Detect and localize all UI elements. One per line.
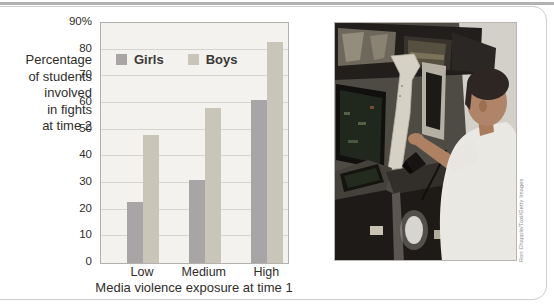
y-tick-label: 50 <box>79 122 92 134</box>
y-tick-label: 40 <box>79 148 92 160</box>
y-tick-label: 0 <box>86 255 92 267</box>
figure-top-rule <box>0 2 554 5</box>
x-category-label: Medium <box>182 265 226 279</box>
bar-group-medium <box>189 108 221 263</box>
y-tick-label: 60 <box>79 95 92 107</box>
boys-bar-high <box>267 42 283 263</box>
legend-swatch-icon <box>116 54 127 65</box>
legend-item-girls: Girls <box>116 52 164 67</box>
x-category-label: Low <box>131 265 154 279</box>
x-category-label: High <box>254 265 280 279</box>
arcade-cabinet-right <box>422 62 446 140</box>
girls-bar-high <box>251 100 267 263</box>
y-tick-label: 70 <box>79 68 92 80</box>
arcade-photo <box>334 22 517 261</box>
legend-label: Boys <box>206 52 238 67</box>
y-axis-ticks: 90%80706050403020100 <box>0 22 94 262</box>
boys-bar-low <box>143 135 159 263</box>
y-tick-label: 10 <box>79 228 92 240</box>
textbook-figure: Percentage of students involved in fight… <box>0 0 554 304</box>
y-tick-label: 30 <box>79 175 92 187</box>
boy-ear <box>479 100 487 112</box>
arcade-screen-left <box>336 84 386 170</box>
girls-bar-medium <box>189 180 205 263</box>
legend-label: Girls <box>134 52 164 67</box>
photo-credit: Ron Chapple/Taxi/Getty Images <box>518 128 528 262</box>
legend: GirlsBoys <box>116 52 237 67</box>
y-tick-label: 80 <box>79 42 92 54</box>
y-tick-label: 20 <box>79 202 92 214</box>
bar-group-low <box>127 135 159 263</box>
girls-bar-low <box>127 202 143 263</box>
x-axis-title: Media violence exposure at time 1 <box>88 280 300 295</box>
boy-hand <box>408 133 424 145</box>
x-axis-category-labels: LowMediumHigh <box>100 265 287 279</box>
y-tick-label: 90% <box>69 15 92 27</box>
plot-area: GirlsBoys <box>100 22 289 264</box>
legend-item-boys: Boys <box>188 52 238 67</box>
bar-group-high <box>251 42 283 263</box>
legend-swatch-icon <box>188 54 199 65</box>
boy-hair <box>467 68 509 100</box>
boys-bar-medium <box>205 108 221 263</box>
